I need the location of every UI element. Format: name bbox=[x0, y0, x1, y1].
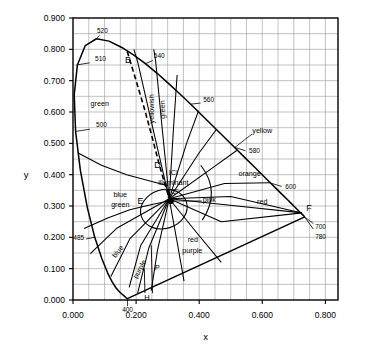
wavelength-labels: 400485500510520540560580600700780 bbox=[73, 27, 326, 314]
grid-lines bbox=[73, 18, 338, 300]
point-label-B: B bbox=[125, 55, 131, 65]
figure-canvas: 0.0000.2000.4000.6000.8000.0000.1000.200… bbox=[0, 0, 365, 350]
region-label-red-purple: red bbox=[188, 235, 198, 244]
region-label-orange: orange bbox=[238, 169, 260, 178]
spectral-locus bbox=[74, 39, 305, 299]
point-label-P: P bbox=[155, 263, 160, 272]
region-label-blue-green-2: green bbox=[111, 200, 129, 209]
y-tick-label: 0.400 bbox=[44, 170, 66, 180]
wavelength-label-510: 510 bbox=[95, 55, 106, 62]
boundary-P-stem bbox=[151, 245, 152, 293]
point-label-F: F bbox=[306, 203, 312, 213]
y-tick-label: 0.700 bbox=[44, 76, 66, 86]
labelled-points: EBDFPH bbox=[125, 55, 312, 302]
region-label-purple: purple bbox=[131, 258, 148, 280]
wavelength-tick-520 bbox=[96, 35, 99, 38]
boundary-pink-lower bbox=[169, 199, 302, 222]
region-label-ici-c-1: ICI bbox=[169, 168, 178, 177]
region-label-yellowish-green: yellowish bbox=[147, 94, 156, 123]
wavelength-label-400: 400 bbox=[122, 306, 133, 313]
y-tick-label: 0.800 bbox=[44, 44, 66, 54]
wavelength-label-560: 560 bbox=[203, 96, 214, 103]
wavelength-label-600: 600 bbox=[285, 183, 296, 190]
region-label-blue-green: blue bbox=[114, 190, 128, 199]
color-region-labels: greenyellowishgreenyelloworangeredpinkre… bbox=[91, 94, 273, 280]
wavelength-label-780: 780 bbox=[315, 233, 326, 240]
region-label-yellowish-green-2: green bbox=[158, 100, 167, 118]
region-label-ici-c-3: "C" bbox=[168, 187, 179, 196]
y-tick-label: 0.500 bbox=[44, 138, 66, 148]
wavelength-tick-500 bbox=[76, 129, 90, 131]
y-tick-label: 0.100 bbox=[44, 264, 66, 274]
point-label-E: E bbox=[137, 196, 143, 206]
axis-ticks bbox=[69, 18, 325, 304]
x-axis-label: x bbox=[203, 331, 208, 342]
wavelength-label-580: 580 bbox=[249, 147, 260, 154]
boundary-H-stem bbox=[144, 269, 145, 293]
region-label-blue: blue bbox=[110, 243, 125, 259]
wavelength-label-540: 540 bbox=[154, 52, 165, 59]
region-label-ici-c-2: illuminant bbox=[158, 178, 188, 187]
cie-chromaticity-diagram: 0.0000.2000.4000.6000.8000.0000.1000.200… bbox=[0, 0, 365, 350]
y-tick-label: 0.200 bbox=[44, 232, 66, 242]
x-tick-label: 0.800 bbox=[315, 310, 337, 320]
region-label-red-purple-2: purple bbox=[182, 246, 202, 255]
y-tick-label: 0.600 bbox=[44, 107, 66, 117]
x-tick-label: 0.400 bbox=[189, 310, 211, 320]
region-label-green: green bbox=[91, 99, 109, 108]
region-label-yellow: yellow bbox=[252, 126, 273, 135]
region-boundaries bbox=[78, 49, 302, 293]
illuminant-c-dot-icon bbox=[168, 198, 174, 204]
y-tick-label: 0.000 bbox=[44, 295, 66, 305]
boundary-orange-arc bbox=[201, 165, 212, 220]
region-label-pink: pink bbox=[203, 195, 217, 204]
wavelength-label-500: 500 bbox=[96, 121, 107, 128]
point-label-D: D bbox=[154, 160, 161, 170]
wavelength-label-700: 700 bbox=[315, 223, 326, 230]
x-tick-label: 0.600 bbox=[252, 310, 274, 320]
region-label-red: red bbox=[257, 197, 267, 206]
y-axis-label: y bbox=[24, 169, 29, 180]
y-tick-label: 0.900 bbox=[44, 13, 66, 23]
point-label-H: H bbox=[144, 293, 149, 302]
wavelength-label-520: 520 bbox=[97, 27, 108, 34]
yellow-callout-leader bbox=[235, 134, 252, 147]
wavelength-label-485: 485 bbox=[73, 234, 84, 241]
y-tick-label: 0.300 bbox=[44, 201, 66, 211]
x-tick-label: 0.000 bbox=[62, 310, 84, 320]
boundary-central-white-ellipse bbox=[135, 183, 192, 235]
